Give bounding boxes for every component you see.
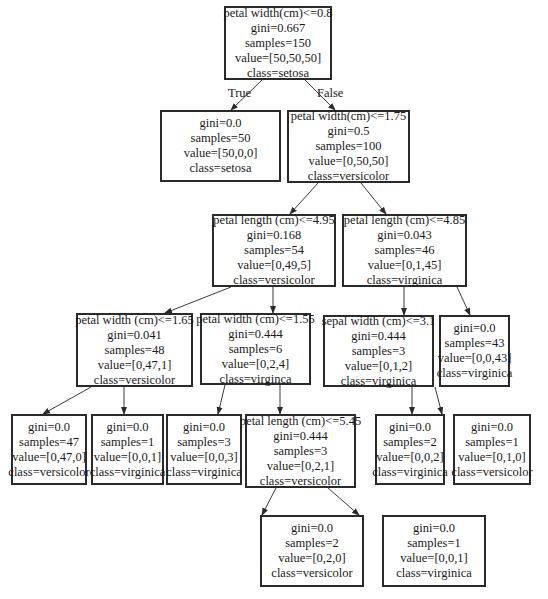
node-value: value=[50,50,50] [235, 51, 321, 66]
node-leaf-virginica-3: gini=0.0 samples=3 value=[0,0,3] class=v… [166, 414, 242, 485]
node-class: class=versicolor [260, 474, 341, 489]
node-samples: samples=48 [105, 343, 165, 358]
node-value: value=[0,47,0] [12, 450, 86, 465]
node-split-petal-length-5-45: petal length (cm)<=5.45 gini=0.444 sampl… [245, 414, 356, 488]
node-leaf-virginica-1b: gini=0.0 samples=1 value=[0,0,1] class=v… [382, 515, 486, 587]
node-class: class=virginica [341, 374, 417, 389]
node-class: class=versicolor [8, 465, 89, 480]
node-gini: gini=0.0 [453, 321, 495, 336]
edge-n7-n14 [435, 387, 442, 414]
edge-n12-n15 [262, 488, 276, 515]
node-class: class=virginca [219, 372, 291, 387]
node-samples: samples=47 [19, 435, 79, 450]
edge-n12-n16 [328, 488, 359, 515]
node-samples: samples=100 [315, 139, 381, 154]
node-class: class=versicolor [233, 273, 314, 288]
node-gini: gini=0.168 [247, 228, 302, 243]
node-gini: gini=0.444 [351, 329, 406, 344]
node-class: class=virginica [90, 465, 166, 480]
node-leaf-virginica-1a: gini=0.0 samples=1 value=[0,0,1] class=v… [91, 414, 164, 485]
node-class: class=setosa [190, 161, 252, 176]
node-condition: petal length (cm)<=4.85 [344, 213, 465, 228]
node-gini: gini=0.0 [291, 521, 333, 536]
node-value: value=[0,0,2] [376, 450, 443, 465]
node-gini: gini=0.0 [28, 420, 70, 435]
edge-label-false: False [317, 86, 343, 100]
node-gini: gini=0.0 [413, 521, 455, 536]
node-value: value=[0,0,1] [400, 551, 467, 566]
node-class: class=versicolor [94, 373, 175, 388]
node-split-petal-length-4-95: petal length (cm)<=4.95 gini=0.168 sampl… [212, 214, 336, 287]
node-samples: samples=3 [274, 444, 328, 459]
node-gini: gini=0.0 [471, 420, 513, 435]
node-gini: gini=0.0 [389, 420, 431, 435]
node-gini: gini=0.041 [107, 328, 162, 343]
node-class: class=versicolor [308, 169, 389, 184]
node-gini: gini=0.5 [327, 124, 369, 139]
node-split-petal-width-1-55: petal width (cm)<=1.55 gini=0.444 sample… [200, 313, 311, 385]
node-gini: gini=0.667 [251, 21, 306, 36]
node-leaf-virginica-2: gini=0.0 samples=2 value=[0,0,2] class=v… [375, 414, 445, 485]
node-root-split: petal width(cm)<=0.8 gini=0.667 samples=… [224, 6, 332, 80]
node-value: value=[0,2,4] [222, 357, 289, 372]
node-split-petal-width-1-75: petal width(cm)<=1.75 gini=0.5 samples=1… [287, 110, 410, 183]
node-value: value=[0,47,1] [98, 358, 172, 373]
node-samples: samples=50 [191, 131, 251, 146]
node-value: value=[0,0,3] [170, 450, 237, 465]
node-condition: petal width (cm)<=1.55 [196, 312, 315, 327]
node-class: class=virginica [367, 273, 443, 288]
node-leaf-versicolor-1: gini=0.0 samples=1 value=[0,1,0] class=v… [453, 414, 531, 485]
node-class: class=versicolor [271, 566, 352, 581]
node-samples: samples=3 [177, 435, 231, 450]
node-split-petal-width-1-65: petal width (cm)<=1.65 gini=0.041 sample… [76, 313, 193, 387]
node-condition: petal width(cm)<=0.8 [223, 6, 332, 21]
node-leaf-virginica-43: gini=0.0 samples=43 value=[0,0,43] class… [439, 315, 510, 387]
node-value: value=[0,50,50] [309, 154, 389, 169]
node-value: value=[0,0,1] [94, 450, 161, 465]
node-leaf-versicolor-2: gini=0.0 samples=2 value=[0,2,0] class=v… [260, 515, 364, 587]
node-value: value=[0,1,2] [345, 359, 412, 374]
edge-n4-n8 [457, 287, 470, 315]
node-samples: samples=6 [229, 342, 283, 357]
node-value: value=[0,1,45] [368, 258, 442, 273]
node-class: class=virginica [372, 465, 448, 480]
node-split-sepal-width-3-1: sepal width (cm)<=3.1 gini=0.444 samples… [323, 315, 434, 387]
node-gini: gini=0.043 [377, 228, 432, 243]
node-gini: gini=0.444 [273, 429, 328, 444]
node-condition: petal length (cm)<=5.45 [240, 414, 361, 429]
edge-n2-n4 [361, 183, 386, 214]
node-samples: samples=2 [285, 536, 339, 551]
node-samples: samples=1 [465, 435, 519, 450]
node-value: value=[0,49,5] [237, 258, 311, 273]
node-samples: samples=2 [383, 435, 437, 450]
node-gini: gini=0.0 [183, 420, 225, 435]
node-leaf-setosa: gini=0.0 samples=50 value=[50,0,0] class… [160, 110, 281, 182]
node-condition: petal length (cm)<=4.95 [213, 213, 334, 228]
edge-n2-n3 [290, 183, 318, 214]
node-gini: gini=0.0 [199, 116, 241, 131]
node-condition: sepal width (cm)<=3.1 [322, 314, 436, 329]
node-split-petal-length-4-85: petal length (cm)<=4.85 gini=0.043 sampl… [342, 214, 467, 287]
node-samples: samples=3 [352, 344, 406, 359]
node-condition: petal width (cm)<=1.65 [75, 313, 194, 328]
node-gini: gini=0.0 [106, 420, 148, 435]
node-value: value=[50,0,0] [184, 146, 258, 161]
node-samples: samples=150 [245, 36, 311, 51]
node-class: class=virginica [396, 566, 472, 581]
node-samples: samples=54 [244, 243, 304, 258]
node-value: value=[0,0,43] [438, 351, 512, 366]
node-class: class=virginica [437, 366, 513, 381]
node-samples: samples=1 [101, 435, 155, 450]
node-value: value=[0,2,0] [278, 551, 345, 566]
node-samples: samples=43 [445, 336, 505, 351]
edge-n6-n11 [218, 385, 225, 414]
node-samples: samples=46 [375, 243, 435, 258]
edge-label-true: True [228, 86, 251, 100]
edge-n3-n5 [165, 287, 231, 313]
node-class: class=virginica [166, 465, 242, 480]
node-condition: petal width(cm)<=1.75 [291, 109, 406, 124]
node-value: value=[0,2,1] [267, 459, 334, 474]
node-samples: samples=1 [407, 536, 461, 551]
edge-n5-n9 [43, 387, 91, 414]
node-gini: gini=0.444 [228, 327, 283, 342]
